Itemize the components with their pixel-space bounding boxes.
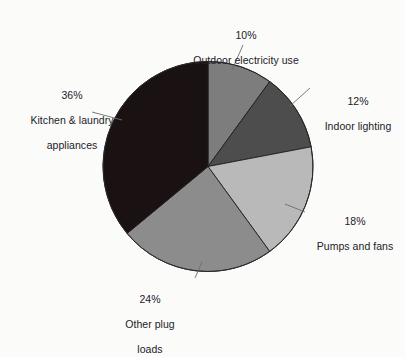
pie-label-name-line1: Other plug	[104, 318, 196, 331]
pie-label-percent: 36%	[8, 89, 136, 102]
pie-label-outdoor-electricity-use: 10% Outdoor electricity use	[176, 16, 316, 79]
pie-label-name-line1: Kitchen & laundry	[8, 114, 136, 127]
pie-label-percent: 10%	[176, 29, 316, 42]
pie-label-percent: 24%	[104, 293, 196, 306]
pie-label-pumps-and-fans: 18% Pumps and fans	[306, 202, 404, 265]
leader-line-indoor-lighting	[290, 88, 310, 106]
pie-label-other-plug-loads: 24% Other plug loads	[104, 280, 196, 357]
pie-label-name-line2: appliances	[8, 139, 136, 152]
pie-label-name: Outdoor electricity use	[176, 54, 316, 67]
pie-label-name: Pumps and fans	[306, 240, 404, 253]
pie-label-name: Indoor lighting	[312, 120, 404, 133]
pie-label-name-line2: loads	[104, 343, 196, 356]
pie-label-percent: 12%	[312, 95, 404, 108]
pie-label-kitchen-and-laundry-appliances: 36% Kitchen & laundry appliances	[8, 76, 136, 164]
pie-label-indoor-lighting: 12% Indoor lighting	[312, 82, 404, 145]
pie-label-percent: 18%	[306, 215, 404, 228]
